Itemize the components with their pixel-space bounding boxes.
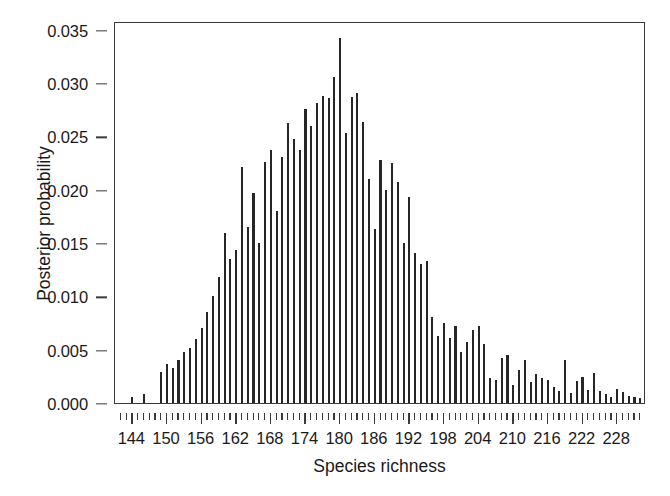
x-tick-minor [460,413,461,420]
x-tick-minor [183,413,184,420]
x-tick-minor [466,413,467,420]
bar [518,370,520,403]
bar [570,393,572,403]
bar [287,123,289,403]
x-tick-minor [253,413,254,420]
bar [628,396,630,403]
x-tick-minor [218,413,219,420]
bar [316,103,318,403]
y-axis-title: Posterior probability [34,59,55,389]
x-tick-label: 198 [429,429,456,448]
x-tick-minor [639,413,640,420]
x-tick-minor [229,413,230,420]
x-tick-minor [316,413,317,420]
bar [420,264,422,403]
x-tick-label: 150 [152,429,179,448]
x-tick-minor [322,413,323,420]
bar [206,312,208,403]
x-tick-minor [524,413,525,420]
x-tick-minor [206,413,207,420]
x-tick-minor [241,413,242,420]
bar [454,326,456,403]
bar [593,373,595,403]
bar [264,162,266,403]
x-tick-minor [380,413,381,420]
bar [605,394,607,403]
x-tick-minor [628,413,629,420]
bar [449,338,451,403]
y-tick-mark [96,83,107,84]
x-tick-minor [177,413,178,420]
x-tick-minor [293,413,294,420]
x-tick-minor [633,413,634,420]
bar [201,328,203,403]
x-tick-minor [472,413,473,420]
bar [189,348,191,403]
x-tick-minor [143,413,144,420]
bar [143,394,145,403]
x-tick-minor [593,413,594,420]
x-tick-minor [489,413,490,420]
x-tick-minor [610,413,611,420]
x-axis: Species richness 14415015616216817418018… [114,404,645,496]
bar [229,259,231,403]
bar [506,355,508,403]
x-tick-minor [414,413,415,420]
bar [576,381,578,403]
y-tick-label: 0.025 [47,128,88,147]
y-tick-mark [96,350,107,351]
x-tick-minor [518,413,519,420]
x-tick-minor [368,413,369,420]
x-tick-label: 210 [499,429,526,448]
x-tick-minor [385,413,386,420]
x-tick-minor [397,413,398,420]
y-tick-mark [96,190,107,191]
bar [235,250,237,403]
x-tick-label: 186 [360,429,387,448]
x-tick-minor [403,413,404,420]
bar [622,392,624,403]
y-tick-label: 0.005 [47,341,88,360]
x-tick-minor [605,413,606,420]
bar [460,352,462,403]
bar [131,397,133,403]
plot-area [115,23,644,403]
bar [328,98,330,403]
x-tick-minor [391,413,392,420]
bar [362,122,364,403]
x-tick-minor [137,413,138,420]
bar [547,380,549,403]
bar [270,150,272,403]
bar [599,391,601,403]
x-tick-minor [541,413,542,420]
x-tick-minor [345,413,346,420]
bar [483,344,485,403]
y-tick-label: 0.000 [47,395,88,414]
x-tick-major [235,413,236,424]
x-tick-minor [495,413,496,420]
bar [351,97,353,403]
bar [633,397,635,403]
bar [610,397,612,403]
x-tick-minor [420,413,421,420]
x-tick-minor [351,413,352,420]
bar [345,133,347,403]
x-tick-label: 228 [603,429,630,448]
bar [403,243,405,403]
x-tick-minor [362,413,363,420]
x-tick-minor [264,413,265,420]
bar [587,390,589,403]
bar [166,364,168,403]
bar [541,378,543,403]
bar [322,96,324,403]
bar [356,93,358,404]
bar [374,229,376,403]
x-tick-minor [126,413,127,420]
x-tick-minor [149,413,150,420]
x-tick-minor [287,413,288,420]
bar [172,368,174,403]
x-tick-label: 156 [187,429,214,448]
x-tick-minor [587,413,588,420]
bar [218,277,220,403]
bar [160,372,162,403]
